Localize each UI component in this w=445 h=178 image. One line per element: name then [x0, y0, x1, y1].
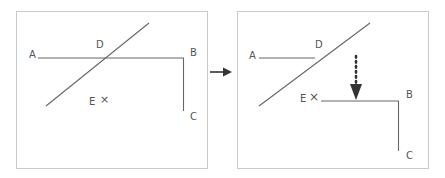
translation-arrow	[350, 56, 362, 100]
label-C: C	[406, 151, 413, 161]
right-arrow-glyph	[209, 62, 235, 82]
right-arrow-icon	[209, 62, 235, 82]
diagram-canvas: A D B C E × A D B C E ×	[0, 0, 445, 178]
cross-mark-icon: ×	[100, 95, 109, 105]
label-E: E	[89, 97, 95, 107]
label-B: B	[406, 90, 413, 100]
label-E: E	[300, 94, 306, 104]
after-panel-graphics	[238, 12, 428, 168]
label-D: D	[96, 40, 104, 50]
label-A: A	[249, 51, 256, 61]
label-D: D	[315, 40, 323, 50]
after-panel: A D B C E ×	[237, 11, 429, 169]
label-A: A	[29, 50, 36, 60]
label-C: C	[190, 112, 197, 122]
cross-mark-icon: ×	[309, 92, 319, 102]
label-B: B	[190, 48, 197, 58]
before-panel: A D B C E ×	[16, 11, 208, 169]
segment-diagonal-transversal	[46, 23, 149, 106]
before-panel-graphics	[17, 12, 207, 168]
